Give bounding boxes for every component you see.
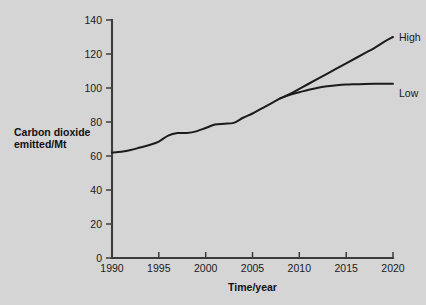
x-axis-title: Time/year: [228, 281, 277, 293]
high-series-label: High: [399, 31, 421, 43]
chart-background: [0, 0, 426, 305]
x-tick-label: 2015: [335, 262, 359, 274]
x-tick-label: 1990: [100, 262, 124, 274]
y-tick-label: 100: [84, 82, 102, 94]
chart-svg: 0 20 40 60 80 100 120 140 1990 1995 2000…: [0, 0, 426, 305]
x-tick-label: 1995: [147, 262, 171, 274]
low-series-label: Low: [399, 87, 419, 99]
y-tick-label: 20: [90, 218, 102, 230]
y-axis-title-line2: emitted/Mt: [14, 138, 67, 150]
y-tick-label: 80: [90, 116, 102, 128]
y-tick-label: 120: [84, 48, 102, 60]
y-tick-label: 40: [90, 184, 102, 196]
y-tick-label: 140: [84, 14, 102, 26]
x-tick-label: 2000: [194, 262, 218, 274]
x-tick-label: 2010: [288, 262, 312, 274]
co2-emissions-chart: 0 20 40 60 80 100 120 140 1990 1995 2000…: [0, 0, 426, 305]
y-tick-label: 60: [90, 150, 102, 162]
y-axis-title-line1: Carbon dioxide: [14, 126, 91, 138]
x-tick-label: 2020: [381, 262, 405, 274]
x-tick-label: 2005: [241, 262, 265, 274]
